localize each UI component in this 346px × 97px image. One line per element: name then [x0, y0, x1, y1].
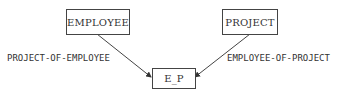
edge-label-project-of-employee: PROJECT-OF-EMPLOYEE	[7, 53, 110, 63]
employee-node-label: EMPLOYEE	[67, 17, 129, 28]
project-node-label: PROJECT	[225, 17, 275, 28]
project-node[interactable]: PROJECT	[222, 9, 278, 35]
e-p-node[interactable]: E_P	[152, 68, 196, 89]
edge-label-employee-of-project: EMPLOYEE-OF-PROJECT	[227, 53, 330, 63]
employee-node[interactable]: EMPLOYEE	[66, 9, 130, 35]
e-p-node-label: E_P	[164, 73, 184, 84]
